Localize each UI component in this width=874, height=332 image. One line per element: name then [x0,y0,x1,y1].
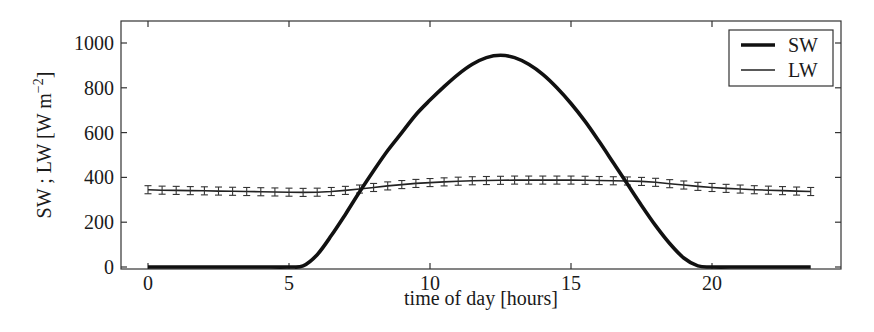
y-axis-ticks: 02004006008001000 [74,32,841,278]
x-tick-label: 20 [702,272,722,294]
y-tick-label: 200 [84,211,114,233]
legend-lw-label: LW [788,59,818,81]
legend: SW LW [729,30,833,86]
y-axis-label-exponent: −2 [31,78,46,93]
legend-sw-label: SW [788,34,818,56]
x-tick-label: 15 [561,272,581,294]
y-tick-label: 0 [104,256,114,278]
y-tick-label: 1000 [74,32,114,54]
y-tick-label: 800 [84,77,114,99]
x-axis-ticks: 05101520 [143,21,722,294]
y-tick-label: 400 [84,166,114,188]
series-lw [145,176,815,196]
y-tick-label: 600 [84,122,114,144]
y-axis-label-close: ] [33,72,55,79]
x-axis-label: time of day [hours] [404,287,558,310]
sw-line [148,55,811,267]
x-tick-label: 5 [284,272,294,294]
y-axis-label-main: SW ; LW [W m [33,93,55,219]
series-sw [148,55,811,267]
chart-svg: 02004006008001000 05101520 time of day [… [0,0,874,332]
chart: 02004006008001000 05101520 time of day [… [0,0,874,332]
x-tick-label: 0 [143,272,153,294]
y-axis-label: SW ; LW [W m−2] [31,72,55,219]
lw-line [148,180,811,192]
